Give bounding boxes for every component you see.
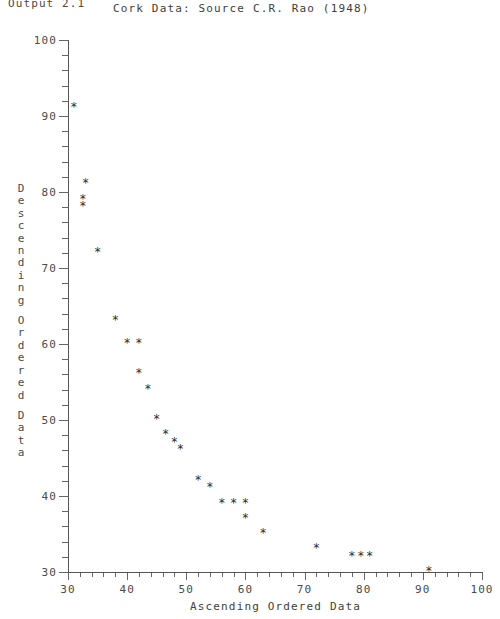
- data-point-marker: *: [312, 543, 321, 554]
- x-axis-tick: [305, 573, 306, 580]
- y-axis-tick: [59, 116, 68, 117]
- x-axis-tick: [222, 573, 223, 577]
- x-axis-tick: [127, 573, 128, 580]
- y-axis-tick: [59, 192, 68, 193]
- y-axis-tick: [62, 207, 68, 208]
- plot-area: 3040506070809010030405060708090100 *****…: [0, 0, 500, 619]
- data-point-marker: *: [194, 475, 203, 486]
- x-axis-tick: [340, 573, 341, 577]
- x-axis-title: Ascending Ordered Data: [68, 600, 483, 613]
- x-axis-tick-label: 70: [285, 583, 325, 596]
- x-axis-tick: [115, 573, 116, 577]
- y-axis-tick: [62, 101, 68, 102]
- y-axis-tick: [62, 542, 68, 543]
- y-axis-tick: [62, 450, 68, 451]
- y-axis-tick: [62, 557, 68, 558]
- y-axis-tick-label: 30: [29, 566, 57, 579]
- data-point-marker: *: [347, 551, 356, 562]
- x-axis-tick: [387, 573, 388, 577]
- x-axis-tick: [80, 573, 81, 577]
- y-axis-tick-label: 40: [29, 490, 57, 503]
- y-axis-tick-label: 70: [29, 262, 57, 275]
- x-axis-tick: [399, 573, 400, 577]
- x-axis-tick-label: 50: [166, 583, 206, 596]
- data-point-marker: *: [81, 178, 90, 189]
- y-axis-tick: [62, 526, 68, 527]
- data-point-marker: *: [134, 368, 143, 379]
- y-axis-tick: [62, 177, 68, 178]
- y-axis-title-char: c: [14, 220, 28, 232]
- x-axis-tick-label: 80: [344, 583, 384, 596]
- x-axis-tick: [139, 573, 140, 577]
- x-axis-tick-label: 60: [225, 583, 265, 596]
- data-point-marker: *: [365, 551, 374, 562]
- data-point-marker: *: [241, 498, 250, 509]
- y-axis-tick: [62, 131, 68, 132]
- y-axis-title-char: g: [14, 295, 28, 307]
- x-axis-tick-label: 30: [48, 583, 88, 596]
- y-axis-title-char: e: [14, 195, 28, 207]
- data-point-marker: *: [93, 247, 102, 258]
- y-axis-tick-label: 100: [29, 34, 57, 47]
- x-axis-tick: [257, 573, 258, 577]
- x-axis-tick-label: 100: [462, 583, 500, 596]
- y-axis-tick-label: 90: [29, 110, 57, 123]
- y-axis-title: DescendingOrderedData: [14, 183, 28, 460]
- data-point-marker: *: [424, 566, 433, 577]
- x-axis-tick: [482, 573, 483, 580]
- y-axis-title-char: a: [14, 422, 28, 434]
- data-point-marker: *: [176, 444, 185, 455]
- x-axis-line: [68, 572, 483, 573]
- y-axis-title-char: d: [14, 257, 28, 269]
- y-axis-tick: [59, 268, 68, 269]
- x-axis-tick: [411, 573, 412, 577]
- y-axis-tick: [62, 222, 68, 223]
- x-axis-tick: [435, 573, 436, 577]
- y-axis-tick: [62, 390, 68, 391]
- y-axis-tick: [62, 253, 68, 254]
- x-axis-tick: [352, 573, 353, 577]
- y-axis-line: [68, 40, 69, 573]
- x-axis-tick: [163, 573, 164, 577]
- y-axis-tick: [62, 405, 68, 406]
- data-point-marker: *: [69, 102, 78, 113]
- y-axis-tick: [59, 420, 68, 421]
- y-axis-tick: [62, 466, 68, 467]
- data-point-marker: *: [161, 429, 170, 440]
- x-axis-tick: [458, 573, 459, 577]
- x-axis-tick-label: 40: [107, 583, 147, 596]
- data-point-marker: *: [123, 338, 132, 349]
- y-axis-tick: [62, 298, 68, 299]
- y-axis-tick: [62, 146, 68, 147]
- y-axis-tick: [59, 344, 68, 345]
- data-point-marker: *: [356, 551, 365, 562]
- y-axis-tick: [62, 435, 68, 436]
- y-axis-tick: [59, 572, 68, 573]
- x-axis-tick: [210, 573, 211, 577]
- y-axis-tick: [62, 374, 68, 375]
- x-axis-tick: [151, 573, 152, 577]
- x-axis-tick: [234, 573, 235, 577]
- data-point-marker: *: [78, 201, 87, 212]
- x-axis-tick: [68, 573, 69, 580]
- y-axis-tick: [59, 496, 68, 497]
- y-axis-tick-label: 50: [29, 414, 57, 427]
- x-axis-tick: [174, 573, 175, 577]
- y-axis-tick: [62, 238, 68, 239]
- y-axis-title-char: a: [14, 447, 28, 459]
- y-axis-tick-label: 80: [29, 186, 57, 199]
- x-axis-tick: [186, 573, 187, 580]
- y-axis-tick: [62, 70, 68, 71]
- data-point-marker: *: [229, 498, 238, 509]
- y-axis-title-char: d: [14, 390, 28, 402]
- x-axis-tick: [447, 573, 448, 577]
- y-axis-tick: [62, 283, 68, 284]
- y-axis-tick: [62, 511, 68, 512]
- y-axis-tick: [62, 55, 68, 56]
- x-axis-tick: [316, 573, 317, 577]
- x-axis-tick: [245, 573, 246, 580]
- data-point-marker: *: [217, 498, 226, 509]
- data-point-marker: *: [143, 384, 152, 395]
- data-point-marker: *: [134, 338, 143, 349]
- y-axis-tick: [62, 329, 68, 330]
